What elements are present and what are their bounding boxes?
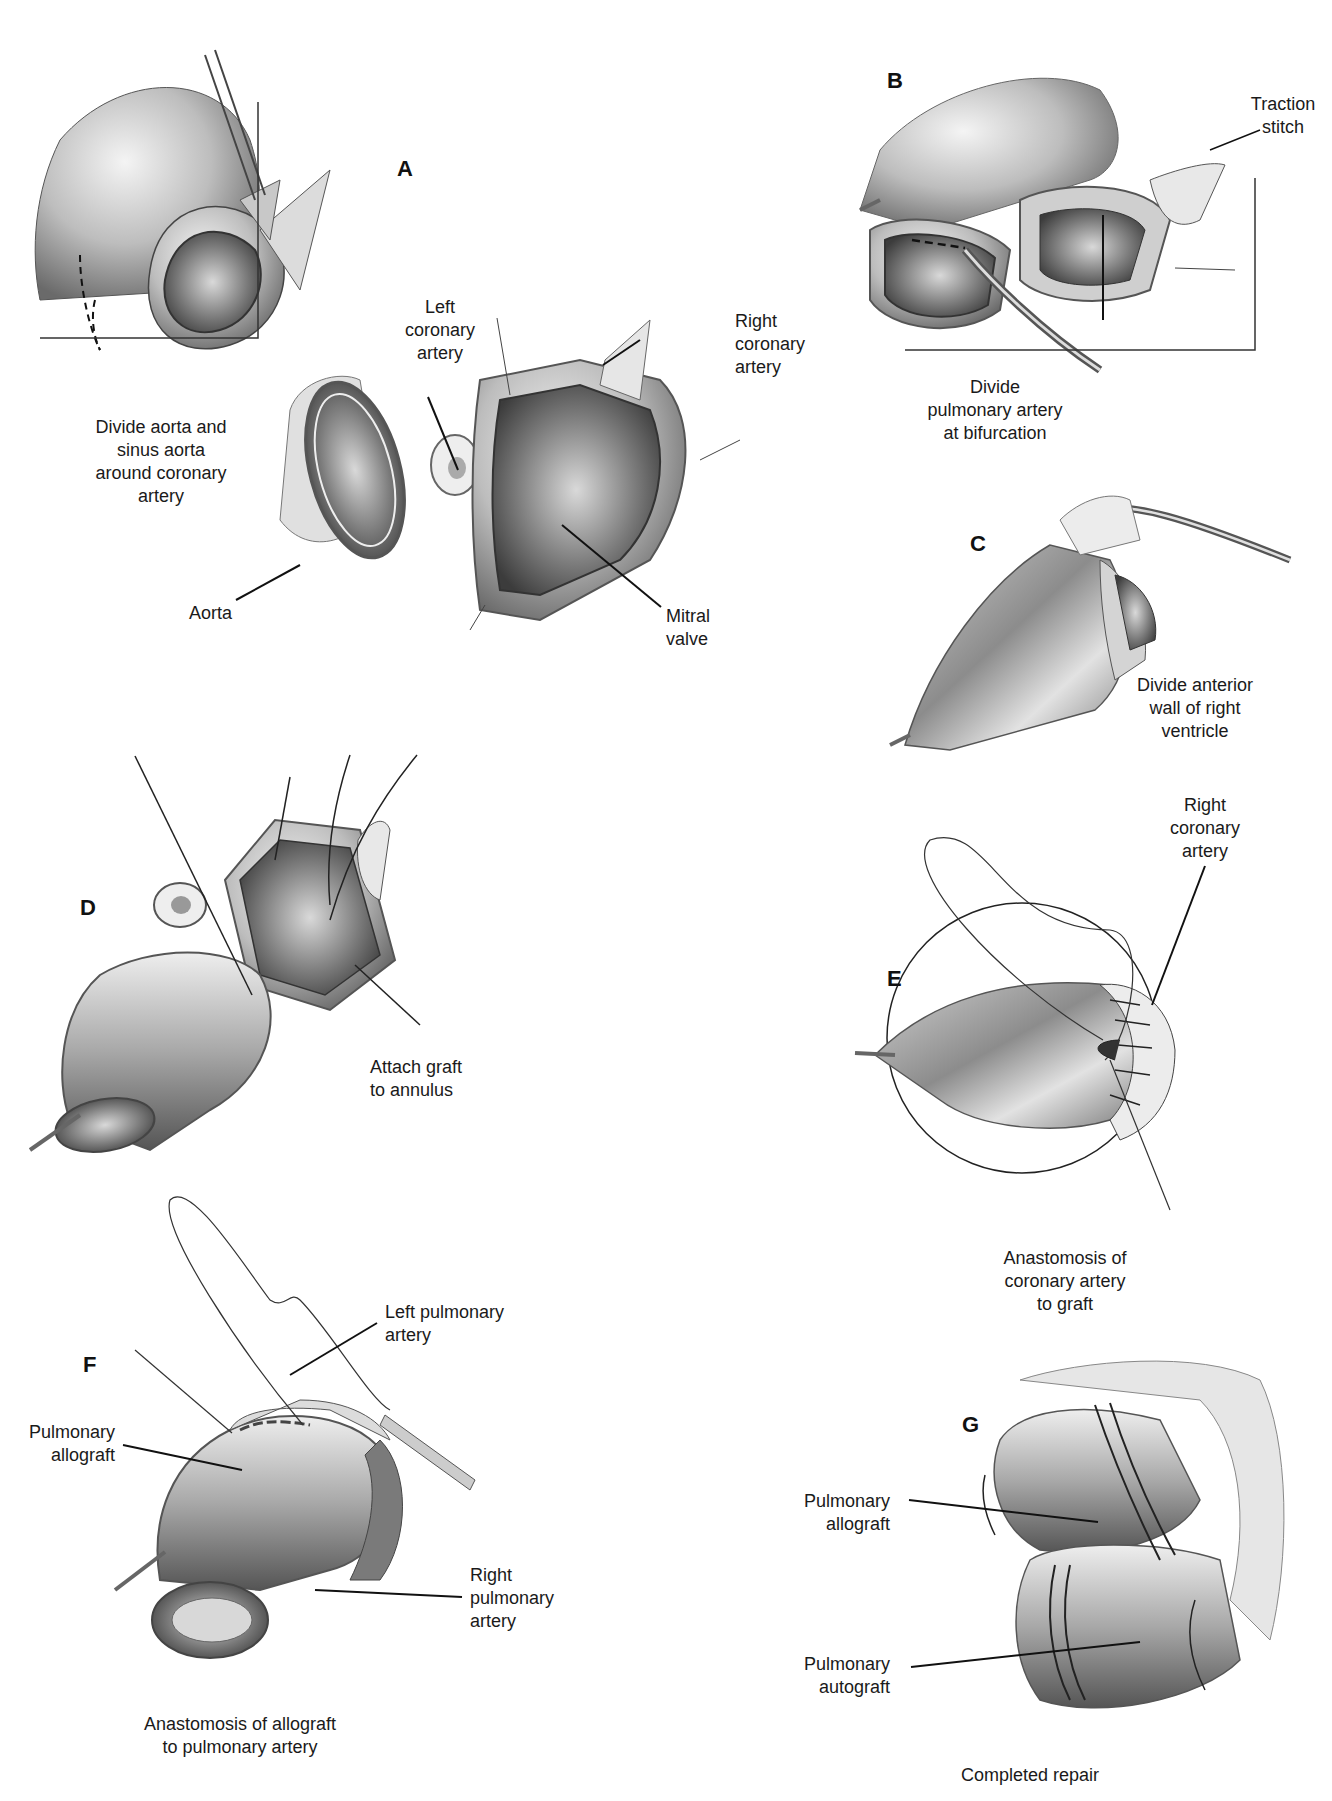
label-pulmonary-autograft: Pulmonary autograft — [790, 1653, 890, 1699]
panel-b-caption: Divide pulmonary artery at bifurcation — [900, 376, 1090, 445]
panel-d-caption: Attach graft to annulus — [370, 1056, 500, 1102]
panel-d-drawing — [30, 755, 420, 1159]
panel-e-drawing — [855, 838, 1205, 1210]
panel-letter-d: D — [80, 895, 96, 921]
label-left-pulmonary-artery: Left pulmonary artery — [385, 1301, 565, 1347]
panel-a-main-drawing — [236, 318, 740, 630]
illustration-artwork — [0, 0, 1332, 1801]
label-right-coronary-artery-e: Right coronary artery — [1155, 794, 1255, 863]
panel-b-drawing — [860, 78, 1260, 370]
label-pulmonary-allograft-f: Pulmonary allograft — [20, 1421, 115, 1467]
label-right-pulmonary-artery: Right pulmonary artery — [470, 1564, 570, 1633]
label-mitral-valve: Mitral valve — [666, 605, 746, 651]
panel-letter-a: A — [397, 156, 413, 182]
panel-c-caption: Divide anterior wall of right ventricle — [1115, 674, 1275, 743]
surgical-illustration-figure: A B C D E F G Divide aorta and sinus aor… — [0, 0, 1332, 1801]
panel-letter-b: B — [887, 68, 903, 94]
label-aorta: Aorta — [160, 602, 232, 625]
panel-f-caption: Anastomosis of allograft to pulmonary ar… — [120, 1713, 360, 1759]
label-right-coronary-artery-a: Right coronary artery — [735, 310, 835, 379]
panel-letter-g: G — [962, 1412, 979, 1438]
panel-e-caption: Anastomosis of coronary artery to graft — [985, 1247, 1145, 1316]
panel-letter-e: E — [887, 966, 902, 992]
panel-a-caption: Divide aorta and sinus aorta around coro… — [66, 416, 256, 508]
label-pulmonary-allograft-g: Pulmonary allograft — [790, 1490, 890, 1536]
panel-f-drawing — [115, 1197, 475, 1658]
panel-letter-c: C — [970, 531, 986, 557]
panel-a-inset-drawing — [35, 50, 330, 350]
label-left-coronary-artery: Left coronary artery — [400, 296, 480, 365]
label-traction-stitch: Traction stitch — [1238, 93, 1328, 139]
panel-g-caption: Completed repair — [950, 1764, 1110, 1787]
panel-letter-f: F — [83, 1352, 96, 1378]
